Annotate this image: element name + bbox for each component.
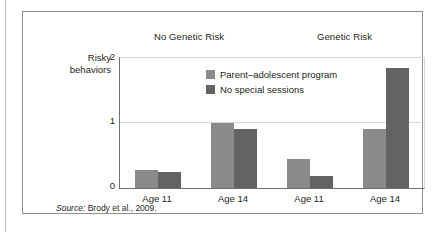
y-tick-label-2: 2: [99, 51, 115, 62]
page-margin-rule: [5, 0, 6, 232]
bar-parent-adolescent-program-2: [287, 159, 310, 188]
figure-box: No Genetic Risk Genetic Risk Risky behav…: [22, 11, 423, 214]
y-tick-label-0: 0: [99, 180, 115, 191]
y-axis-title-line-2: behaviors: [51, 64, 111, 76]
bar-no-special-sessions-0: [158, 172, 181, 188]
y-tick-label-1: 1: [99, 115, 115, 126]
legend-label-0: Parent–adolescent program: [220, 69, 337, 80]
group-title-genetic-risk: Genetic Risk: [317, 31, 372, 42]
legend-item-parent-adolescent-program: Parent–adolescent program: [206, 68, 337, 80]
bar-parent-adolescent-program-3: [363, 129, 386, 188]
bar-no-special-sessions-1: [234, 129, 257, 188]
bar-no-special-sessions-3: [386, 68, 409, 188]
bar-parent-adolescent-program-0: [135, 170, 158, 188]
x-axis-label-3: Age 14: [347, 193, 423, 204]
source-note-lead: Source:: [56, 203, 85, 213]
source-note-text: Brody et al., 2009.: [85, 203, 156, 213]
group-title-no-genetic-risk: No Genetic Risk: [154, 31, 224, 42]
bar-no-special-sessions-2: [310, 176, 333, 188]
source-note: Source: Brody et al., 2009.: [56, 203, 157, 213]
legend-swatch-light-icon: [206, 70, 215, 79]
x-axis-label-2: Age 11: [271, 193, 347, 204]
bar-parent-adolescent-program-1: [211, 123, 234, 188]
chart-legend: Parent–adolescent program No special ses…: [206, 68, 337, 98]
legend-swatch-dark-icon: [206, 85, 215, 94]
legend-item-no-special-sessions: No special sessions: [206, 83, 337, 95]
legend-label-1: No special sessions: [220, 84, 304, 95]
x-axis-label-1: Age 14: [195, 193, 271, 204]
gridline-y-1: [120, 122, 424, 123]
